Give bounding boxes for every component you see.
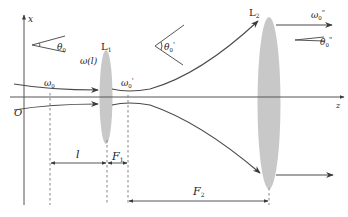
lens-l2-label: L2 [249,7,260,19]
waist-mid-label: ω0' [121,77,134,89]
angle-theta0-prime: θ0' [155,25,184,65]
angle-theta0-double-prime: θ0" [295,36,332,48]
beam-upper-mid [112,21,258,91]
svg-text:θ0": θ0" [320,36,332,48]
angle-theta0: θ0 [32,36,66,53]
spot-l1-label: ω(l) [80,56,98,66]
dim-f2-label: F2 [192,185,205,198]
svg-text:θ0': θ0' [164,41,175,53]
beam-lower-in [14,104,98,110]
x-axis-label: x [28,14,33,24]
z-axis-label: z [335,101,341,110]
waist-in-label: ω0 [44,78,55,89]
lens-l2 [258,17,281,189]
lens-l1-label: L1 [101,41,111,53]
svg-text:θ0: θ0 [57,42,66,53]
beam-expander-diagram: x z O l F1 F2 L1 L2 ω0 ω(l) ω0' ω0" θ0 θ… [0,0,348,217]
beam-upper-in [14,84,98,90]
waist-out-label: ω0" [311,9,325,21]
dim-f1-label: F1 [111,150,123,163]
dim-l-label: l [76,148,80,161]
beam-lower-mid [112,103,260,173]
